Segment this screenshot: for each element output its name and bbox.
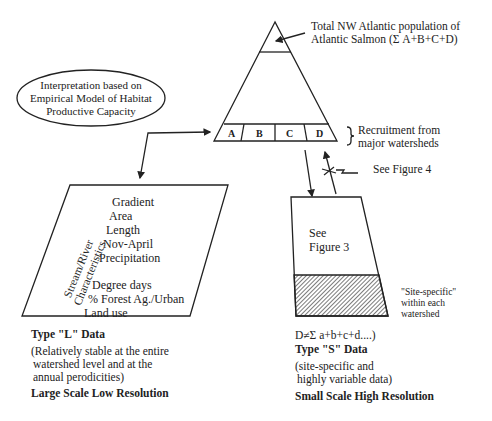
arrow-to-right-box — [305, 150, 312, 196]
pyramid-total-label-2: Atlantic Salmon (Σ A+B+C+D) — [311, 33, 458, 46]
arrow-to-left-box — [140, 133, 150, 178]
type-l-desc-3: annual perodicities) — [33, 371, 124, 384]
item-length: Length — [106, 224, 140, 237]
recruitment-brace — [347, 127, 354, 145]
pyramid-total-label-1: Total NW Atlantic population of — [311, 20, 460, 33]
item-land-use: Land use — [84, 307, 128, 320]
ellipse-line-3: Productive Capacity — [20, 105, 162, 118]
item-area: Area — [109, 210, 132, 223]
see-figure-3-line-1: See — [309, 227, 326, 240]
site-specific-label-1: "Site-specific" — [401, 287, 456, 298]
segment-b: B — [256, 127, 263, 140]
segment-c: C — [286, 127, 293, 140]
item-gradient: Gradient — [112, 196, 154, 209]
type-l-data-title: Type "L" Data — [31, 328, 105, 341]
arrow-to-pyramid — [150, 132, 210, 133]
type-l-scale: Large Scale Low Resolution — [31, 387, 169, 400]
type-l-desc-1: (Relatively stable at the entire — [31, 345, 169, 358]
type-s-desc-1: (site-specific and — [295, 360, 374, 373]
item-forest-ag-urban: % Forest Ag./Urban — [88, 293, 184, 306]
type-s-data-title: Type "S" Data — [295, 343, 368, 356]
recruitment-label-1: Recruitment from — [358, 124, 440, 137]
site-specific-label-3: watershed — [401, 309, 440, 320]
type-s-scale: Small Scale High Resolution — [295, 390, 434, 403]
see-figure-4-label: See Figure 4 — [373, 163, 431, 176]
item-nov-april: Nov-April — [103, 238, 153, 251]
ellipse-line-1: Interpretation based on — [20, 79, 162, 92]
ellipse-line-2: Empirical Model of Habitat — [20, 92, 162, 105]
recruitment-label-2: major watersheds — [358, 137, 439, 150]
segment-a: A — [228, 127, 235, 140]
see-figure-4-leader — [336, 170, 358, 173]
type-s-desc-2: highly variable data) — [297, 373, 392, 386]
site-specific-label-2: within each — [401, 298, 445, 309]
type-l-desc-2: watershed level and at the — [33, 358, 152, 371]
sum-formula: D≠Σ a+b+c+d....) — [295, 329, 376, 342]
item-degree-days: Degree days — [92, 279, 152, 292]
see-figure-3-line-2: Figure 3 — [309, 241, 349, 254]
apex-pointer-arrow — [276, 33, 305, 41]
item-precipitation: Precipitation — [99, 252, 160, 265]
segment-d: D — [316, 127, 323, 140]
site-specific-hatched-region — [294, 275, 388, 316]
